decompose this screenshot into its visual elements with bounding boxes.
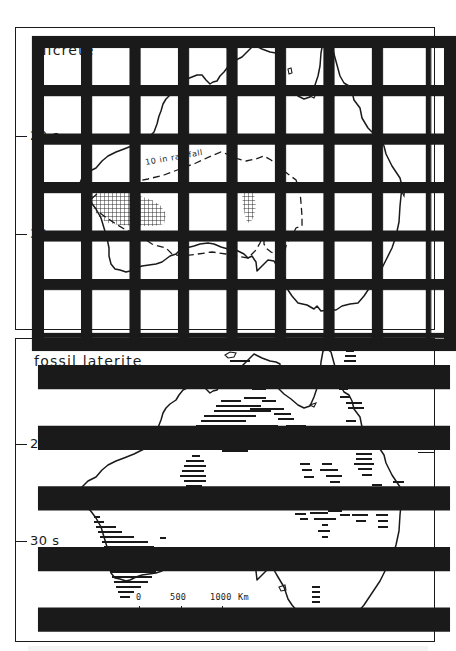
fossil-laterite-map-panel: fossil laterite 20 s 30 s 0 500 1000 Km — [15, 338, 435, 642]
scale-label-0: 0 — [136, 592, 141, 602]
lat-label-30s: 30 s — [30, 226, 59, 241]
lat-tick-20s-left — [15, 136, 27, 137]
lat-tick-30s-right — [418, 239, 435, 240]
legend-fossil-laterite: fossil laterite — [34, 353, 143, 369]
lat-tick-20s-right — [418, 452, 435, 453]
lat-label-20s: 20 s — [30, 128, 59, 143]
lat-tick-30s-left — [15, 234, 27, 235]
scale-unit: Km — [238, 592, 249, 602]
legend-silcrete: silcrete — [34, 42, 95, 58]
cropped-caption — [28, 646, 428, 651]
scale-bar: 0 500 1000 Km — [136, 592, 286, 622]
lat-label-30s: 30 s — [30, 533, 59, 548]
lat-tick-30s-left — [15, 541, 27, 542]
lat-tick-30s-right — [418, 549, 435, 550]
scale-label-1000: 1000 — [210, 592, 232, 602]
scale-tick-500 — [181, 606, 182, 612]
silcrete-map-panel: silcrete 10 in rainfall 20 s 30 s — [15, 27, 435, 330]
silcrete-swatch-icon — [34, 42, 454, 345]
scale-tick-1000 — [222, 606, 223, 612]
lat-label-20s: 20 s — [30, 436, 59, 451]
lat-tick-20s-left — [15, 444, 27, 445]
scale-label-500: 500 — [170, 592, 186, 602]
scale-tick-0 — [139, 606, 140, 612]
lat-tick-20s-right — [418, 140, 435, 141]
